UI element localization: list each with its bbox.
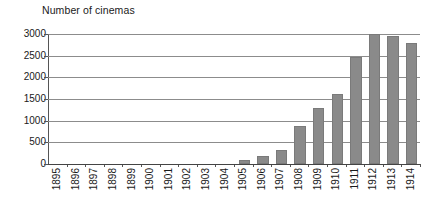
plot-area (48, 34, 420, 164)
x-tick-mark-1914 (420, 164, 421, 167)
bar-1911 (350, 57, 362, 164)
x-tick-1904: 1904 (215, 164, 234, 216)
x-tick-label-1895: 1895 (52, 168, 62, 190)
bar-1908 (294, 126, 306, 164)
x-tick-label-1913: 1913 (387, 168, 397, 190)
x-tick-1911: 1911 (346, 164, 365, 216)
x-tick-label-1906: 1906 (257, 168, 267, 190)
x-tick-1900: 1900 (141, 164, 160, 216)
bar-1905 (239, 160, 251, 164)
x-tick-1907: 1907 (271, 164, 290, 216)
x-tick-label-1912: 1912 (368, 168, 378, 190)
y-tick-label-2000: 2000 (2, 72, 46, 82)
x-tick-1913: 1913 (383, 164, 402, 216)
cinemas-bar-chart: Number of cinemas 0500100015002000250030… (0, 0, 440, 219)
x-tick-label-1909: 1909 (313, 168, 323, 190)
x-axis-labels: 1895189618971898189919001901190219031904… (48, 164, 420, 219)
y-tick-mark-3000 (44, 34, 48, 35)
x-tick-1910: 1910 (327, 164, 346, 216)
bar-1909 (313, 108, 325, 164)
x-tick-label-1896: 1896 (71, 168, 81, 190)
x-tick-1902: 1902 (178, 164, 197, 216)
x-tick-label-1914: 1914 (406, 168, 416, 190)
x-tick-label-1902: 1902 (182, 168, 192, 190)
bar-1906 (257, 156, 269, 164)
x-tick-label-1897: 1897 (89, 168, 99, 190)
x-tick-1898: 1898 (104, 164, 123, 216)
x-tick-1909: 1909 (308, 164, 327, 216)
chart-title: Number of cinemas (42, 4, 135, 16)
bar-1910 (332, 94, 344, 164)
bar-1914 (406, 43, 418, 164)
y-tick-label-2500: 2500 (2, 51, 46, 61)
x-tick-label-1899: 1899 (127, 168, 137, 190)
x-tick-1906: 1906 (253, 164, 272, 216)
y-tick-label-500: 500 (2, 137, 46, 147)
bar-1913 (387, 36, 399, 164)
x-tick-label-1901: 1901 (164, 168, 174, 190)
x-tick-label-1898: 1898 (108, 168, 118, 190)
x-tick-1908: 1908 (290, 164, 309, 216)
x-tick-label-1903: 1903 (201, 168, 211, 190)
x-tick-1905: 1905 (234, 164, 253, 216)
bars-layer (49, 35, 420, 164)
y-tick-label-0: 0 (2, 159, 46, 169)
gridline-0 (48, 164, 420, 165)
x-tick-1901: 1901 (160, 164, 179, 216)
y-tick-label-1000: 1000 (2, 116, 46, 126)
x-tick-1899: 1899 (122, 164, 141, 216)
x-tick-1914: 1914 (401, 164, 420, 216)
x-tick-label-1905: 1905 (238, 168, 248, 190)
bar-1912 (369, 34, 381, 164)
x-tick-label-1911: 1911 (350, 168, 360, 190)
x-tick-label-1908: 1908 (294, 168, 304, 190)
y-tick-label-1500: 1500 (2, 94, 46, 104)
x-tick-label-1900: 1900 (145, 168, 155, 190)
bar-1907 (276, 150, 288, 164)
x-tick-label-1910: 1910 (331, 168, 341, 190)
x-tick-label-1904: 1904 (220, 168, 230, 190)
x-tick-1897: 1897 (85, 164, 104, 216)
x-tick-1912: 1912 (364, 164, 383, 216)
y-tick-label-3000: 3000 (2, 29, 46, 39)
x-tick-1895: 1895 (48, 164, 67, 216)
x-tick-1896: 1896 (67, 164, 86, 216)
x-tick-1903: 1903 (197, 164, 216, 216)
x-tick-label-1907: 1907 (275, 168, 285, 190)
